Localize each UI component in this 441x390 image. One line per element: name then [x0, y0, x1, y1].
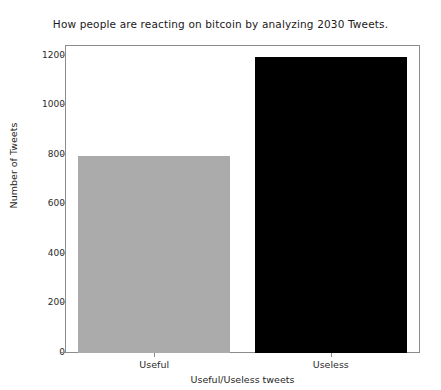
bar-chart-figure: How people are reacting on bitcoin by an… [0, 0, 441, 390]
chart-title: How people are reacting on bitcoin by an… [0, 18, 441, 30]
x-axis-tick-label-useful: Useful [94, 359, 214, 370]
x-axis-label: Useful/Useless tweets [65, 374, 420, 385]
y-axis-tick-labels: 020040060080010001200 [12, 45, 65, 353]
y-axis-tick-label: 200 [19, 298, 65, 307]
x-axis-tick-mark [331, 353, 332, 357]
bar-useless [255, 57, 407, 353]
y-axis-tick-label: 0 [19, 348, 65, 357]
x-axis-tick-mark [154, 353, 155, 357]
x-axis-tick-label-useless: Useless [271, 359, 391, 370]
y-axis-tick-label: 400 [19, 248, 65, 257]
y-axis-tick-label: 1000 [19, 100, 65, 109]
y-axis-tick-label: 800 [19, 149, 65, 158]
y-axis-tick-label: 1200 [19, 50, 65, 59]
y-axis-tick-label: 600 [19, 199, 65, 208]
bar-useful [78, 156, 230, 353]
plot-area [66, 46, 419, 353]
